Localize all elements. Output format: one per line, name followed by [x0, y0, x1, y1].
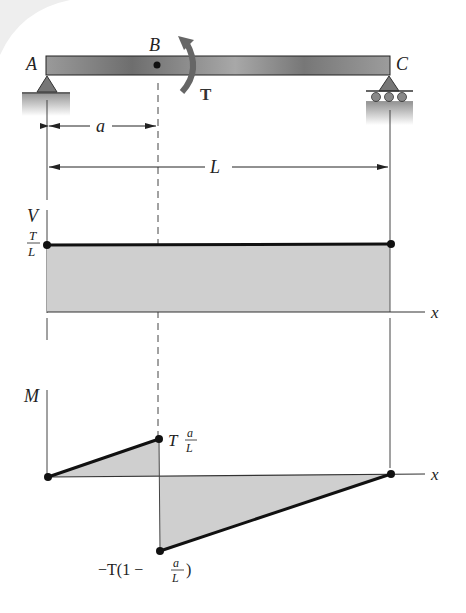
torque-label: T — [200, 85, 212, 104]
pin-support-a — [22, 76, 70, 116]
corner-shade — [0, 0, 70, 55]
moment-min-text: −T(1 − — [98, 561, 143, 579]
moment-axis-label: M — [23, 386, 40, 406]
moment-min-close: ) — [186, 561, 191, 579]
label-a: A — [25, 54, 38, 74]
dim-a-label: a — [96, 116, 105, 136]
point-b — [154, 62, 161, 69]
beam — [46, 56, 390, 75]
shear-diagram — [43, 210, 425, 330]
shear-axis-label: V — [27, 206, 40, 226]
shear-x-label: x — [430, 303, 439, 322]
beam-diagram: A B C T a L V T L x M T a L −T( — [0, 0, 466, 613]
label-b: B — [149, 35, 160, 55]
label-c: C — [396, 54, 409, 74]
moment-peak-den: L — [185, 441, 193, 455]
moment-min-num: a — [173, 556, 179, 570]
moment-diagram — [44, 330, 425, 555]
moment-x-label: x — [430, 465, 439, 484]
shear-value-num: T — [29, 228, 37, 243]
moment-peak-prefix: T — [168, 431, 179, 450]
moment-min-den: L — [171, 571, 179, 585]
dim-l-label: L — [209, 157, 220, 177]
shear-value-den: L — [27, 244, 35, 259]
moment-peak-num: a — [187, 426, 193, 440]
